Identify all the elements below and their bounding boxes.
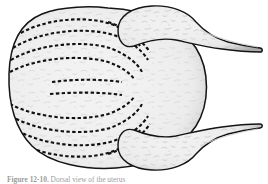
uterus-dorsal-view-illustration [0, 0, 268, 178]
figure-caption-text: Dorsal view of the uterus [51, 175, 126, 184]
figure-caption-label: Figure 12-10. [7, 175, 49, 184]
figure-page: Figure 12-10. Dorsal view of the uterus [0, 0, 268, 184]
figure-caption: Figure 12-10. Dorsal view of the uterus [7, 175, 262, 184]
